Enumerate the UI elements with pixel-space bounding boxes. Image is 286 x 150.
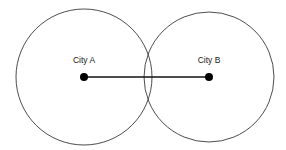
diagram-canvas: City A City B	[0, 0, 286, 150]
label-city-a: City A	[73, 55, 96, 65]
two-circle-venn-diagram: City A City B	[0, 0, 286, 150]
dot-city-a	[80, 73, 88, 81]
label-city-b: City B	[198, 55, 221, 65]
dot-city-b	[205, 73, 213, 81]
